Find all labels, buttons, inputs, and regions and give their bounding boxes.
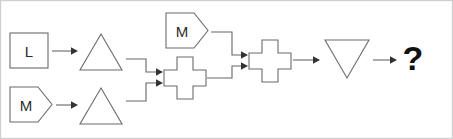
flowchart-svg: L M M	[0, 0, 453, 139]
node-label-m: M	[176, 23, 189, 40]
arrow-head-icon	[313, 56, 320, 64]
node-triangle-up-bottom[interactable]	[80, 88, 122, 124]
arrow-head-icon	[71, 47, 78, 55]
diagram-canvas: L M M	[0, 0, 453, 139]
edge-cross-right-to-triangle-down	[293, 56, 320, 64]
edge-pentagon-upper-to-cross-right	[211, 32, 248, 59]
edge-triangle-down-to-question	[373, 56, 397, 64]
edge-pentagon-to-triangle-bottom	[56, 101, 78, 109]
arrow-head-icon	[156, 79, 163, 87]
node-cross-right[interactable]	[249, 40, 291, 82]
canvas-frame-border	[1, 1, 453, 139]
edge-triangle-top-to-cross-middle	[126, 59, 163, 76]
edge-square-to-triangle-top	[52, 47, 78, 55]
node-label-m: M	[20, 97, 33, 114]
arrow-head-icon	[241, 51, 248, 59]
arrow-head-icon	[241, 62, 248, 70]
edge-triangle-bottom-to-cross-middle	[126, 79, 163, 101]
node-pentagon-m-lower-left[interactable]: M	[10, 87, 52, 122]
arrow-head-icon	[390, 56, 397, 64]
connector-elbow	[126, 59, 156, 72]
node-cross-middle[interactable]	[164, 57, 206, 99]
node-label-l: L	[25, 43, 33, 60]
node-pentagon-m-upper[interactable]: M	[166, 13, 208, 48]
node-triangle-down[interactable]	[325, 40, 369, 78]
connector-elbow	[207, 66, 241, 78]
arrow-head-icon	[71, 101, 78, 109]
triangle-up-shape	[80, 88, 122, 124]
connector-elbow	[211, 32, 241, 55]
connector-elbow	[126, 83, 156, 101]
cross-shape	[249, 40, 291, 82]
triangle-up-shape	[80, 34, 122, 70]
node-question-mark[interactable]: ?	[403, 39, 424, 77]
triangle-down-shape	[325, 40, 369, 78]
arrow-head-icon	[156, 68, 163, 76]
question-mark-label: ?	[403, 39, 424, 77]
edge-cross-middle-to-cross-right	[207, 62, 248, 78]
cross-shape	[164, 57, 206, 99]
node-square-l[interactable]: L	[10, 33, 48, 68]
node-triangle-up-top[interactable]	[80, 34, 122, 70]
